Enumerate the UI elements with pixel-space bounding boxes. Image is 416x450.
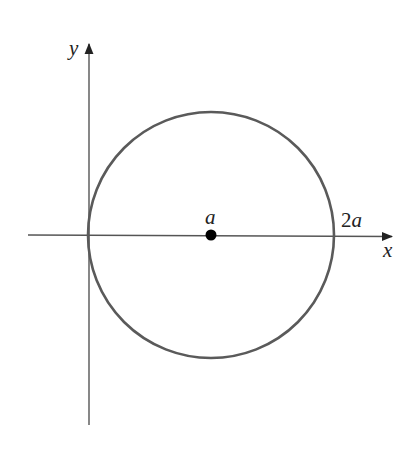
center-label: a [205,205,216,229]
y-axis-label: y [67,36,79,60]
circle-diagram: y x a 2a [0,0,416,450]
intercept-label: 2a [341,208,362,232]
x-axis-label: x [382,238,393,262]
center-point [206,230,217,241]
